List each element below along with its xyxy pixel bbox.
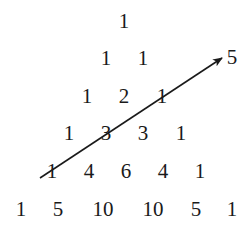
arrow-label: 5 [227, 47, 238, 68]
diagonal-arrow-icon [0, 0, 248, 226]
